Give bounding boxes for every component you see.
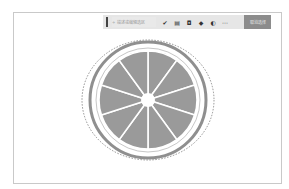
fill-icon[interactable]: ◆ <box>196 15 206 29</box>
sparkle-icon: ✧ <box>112 20 115 25</box>
more-icon[interactable]: ⋯ <box>220 15 230 29</box>
drag-handle[interactable] <box>106 17 108 27</box>
brush-icon[interactable]: ✔ <box>160 15 170 29</box>
adjust-icon[interactable]: ◐ <box>208 15 218 29</box>
frame-icon[interactable]: ◘ <box>184 15 194 29</box>
prompt-placeholder: 描述或编辑选区 <box>117 19 145 25</box>
deselect-button[interactable]: 取消选择 <box>244 15 271 29</box>
selection-toolbar: ✧ 描述或编辑选区 ✔ ▤ ◘ ◆ ◐ ⋯ 取消选择 <box>103 15 271 29</box>
prompt-input[interactable]: ✧ 描述或编辑选区 <box>112 17 156 27</box>
citrus-slice-image <box>80 35 220 165</box>
layers-icon[interactable]: ▤ <box>172 15 182 29</box>
